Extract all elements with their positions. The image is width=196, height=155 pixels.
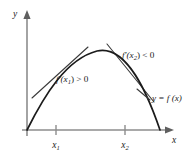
y-axis-label: y	[12, 9, 18, 19]
tangent-line-at-x1	[32, 47, 88, 98]
function-curve	[27, 50, 160, 130]
x-axis	[22, 126, 174, 133]
left-tangent-annotation: f′(x1) > 0	[56, 74, 89, 85]
y-axis-arrowhead	[23, 10, 30, 19]
tick-label-x2: x2	[120, 140, 129, 151]
tick-label-x1: x1	[51, 140, 60, 151]
calculus-derivative-diagram: y x x1 x2 f′(x1) > 0 f′(x2) < 0 y = f (x…	[0, 0, 196, 155]
right-tangent-annotation: f′(x2) < 0	[122, 50, 155, 61]
curve-equation-label: y = f (x)	[151, 93, 182, 103]
x-axis-arrowhead	[165, 126, 174, 133]
x-axis-label: x	[171, 135, 177, 145]
y-axis	[23, 10, 30, 136]
